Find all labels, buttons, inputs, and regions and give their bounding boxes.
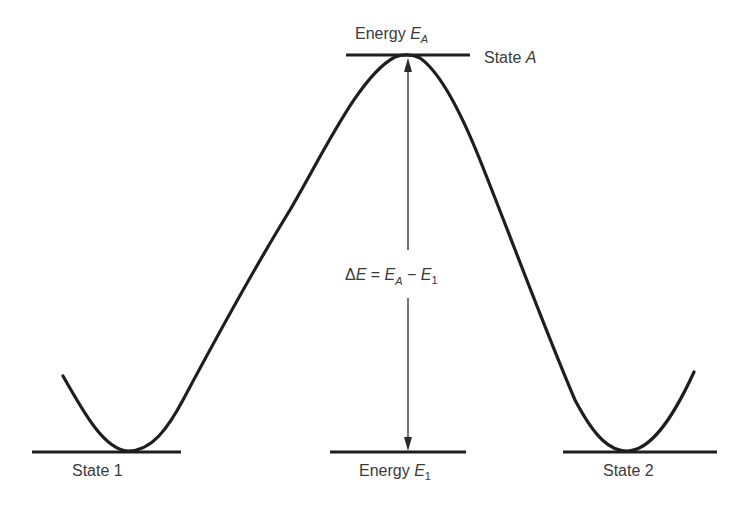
delta-e-arrow [404, 58, 412, 451]
state-a-label: State A [484, 49, 536, 66]
state-2-label: State 2 [603, 462, 654, 479]
arrow-up-head-icon [404, 58, 412, 72]
state-1-label: State 1 [72, 462, 123, 479]
energy-barrier-diagram: Energy EA State A ΔE = EA − E1 State 1 E… [0, 0, 742, 507]
delta-e-equation: ΔE = EA − E1 [345, 266, 438, 287]
arrow-down-head-icon [404, 437, 412, 451]
energy-ea-label: Energy EA [355, 25, 428, 45]
energy-curve [63, 55, 694, 451]
energy-e1-label: Energy E1 [359, 462, 431, 482]
